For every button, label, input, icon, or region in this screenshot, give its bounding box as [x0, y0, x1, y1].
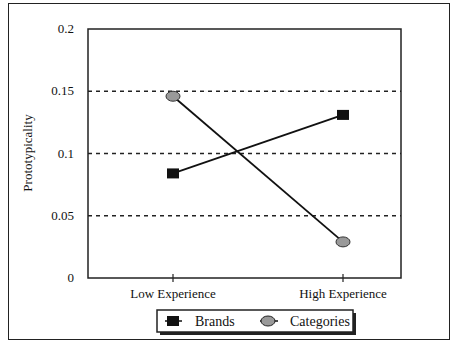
legend-brands-label: Brands — [195, 314, 235, 329]
y-tick-label: 0.2 — [58, 21, 74, 36]
y-axis-ticks: 00.050.10.150.2 — [51, 21, 74, 285]
chart: 00.050.10.150.2 Low ExperienceHigh Exper… — [0, 0, 461, 347]
y-tick-label: 0 — [68, 270, 75, 285]
series-line-brands — [173, 115, 343, 174]
legend-brands-marker — [167, 316, 179, 326]
data-point-categories — [166, 91, 180, 101]
data-point-brands — [337, 110, 349, 120]
y-tick-label: 0.05 — [51, 208, 74, 223]
y-axis-label: Prototypicality — [20, 114, 35, 192]
series-group — [166, 91, 350, 247]
y-tick-label: 0.1 — [58, 146, 74, 161]
legend: Brands Categories — [157, 310, 356, 335]
x-tick-label: Low Experience — [130, 286, 216, 301]
legend-categories-marker — [261, 316, 275, 326]
legend-categories-label: Categories — [290, 314, 350, 329]
data-point-brands — [167, 168, 179, 178]
series-line-categories — [173, 96, 343, 242]
gridlines — [88, 91, 401, 216]
x-tick-label: High Experience — [299, 286, 387, 301]
data-point-categories — [336, 237, 350, 247]
y-tick-label: 0.15 — [51, 83, 74, 98]
